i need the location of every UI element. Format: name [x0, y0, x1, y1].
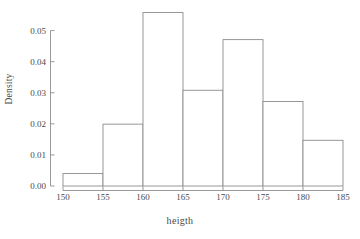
histogram-figure: 0.000.010.020.030.040.05 150155160165170…	[0, 0, 360, 239]
y-axis	[51, 31, 55, 186]
histogram-bars	[63, 13, 343, 186]
histogram-bar	[143, 13, 183, 186]
histogram-bar	[63, 174, 103, 186]
histogram-bar	[103, 124, 143, 186]
y-tick-label: 0.04	[12, 57, 46, 67]
x-tick-label: 175	[256, 192, 270, 202]
x-tick-label: 180	[296, 192, 310, 202]
x-tick-label: 165	[176, 192, 190, 202]
plot-canvas	[0, 0, 360, 239]
y-tick-label: 0.02	[12, 119, 46, 129]
histogram-bar	[263, 101, 303, 186]
y-tick-label: 0.01	[12, 150, 46, 160]
x-tick-label: 155	[96, 192, 110, 202]
y-axis-label: Density	[4, 59, 14, 119]
x-tick-label: 150	[56, 192, 70, 202]
x-tick-label: 160	[136, 192, 150, 202]
x-tick-label: 170	[216, 192, 230, 202]
y-tick-label: 0.03	[12, 88, 46, 98]
histogram-bar	[303, 140, 343, 186]
x-axis	[63, 187, 343, 191]
x-axis-label: heigth	[0, 215, 360, 226]
y-tick-label: 0.05	[12, 26, 46, 36]
y-tick-label-group: 0.000.010.020.030.040.05	[12, 0, 46, 239]
histogram-bar	[223, 40, 263, 186]
x-tick-label: 185	[336, 192, 350, 202]
histogram-bar	[183, 90, 223, 186]
y-tick-label: 0.00	[12, 181, 46, 191]
